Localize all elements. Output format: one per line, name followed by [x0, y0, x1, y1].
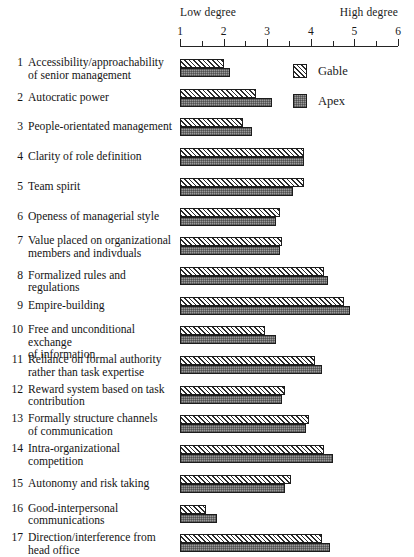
row-number: 7 [8, 235, 23, 248]
row-label: 9Empire-building [8, 300, 176, 313]
row-number: 11 [8, 354, 23, 367]
row-label-text: Accessibility/approachabilityof senior m… [28, 57, 164, 82]
row-number: 4 [8, 151, 23, 164]
axis-tick-major-1 [180, 39, 181, 46]
row-number: 8 [8, 270, 23, 283]
row-label: 6Openess of managerial style [8, 211, 176, 224]
bar-apex [180, 187, 293, 196]
bar-apex [180, 246, 280, 255]
row-number: 5 [8, 181, 23, 194]
axis-tick-major-6 [398, 39, 399, 46]
bar-apex [180, 276, 328, 285]
row-label: 16Good-interpersonalcommunications [8, 503, 176, 528]
axis-tick-major-5 [354, 39, 355, 46]
axis-tick-minor [376, 41, 377, 46]
row-label-text: Team spirit [28, 181, 80, 194]
row-label-text: Openess of managerial style [28, 211, 159, 224]
bar-apex [180, 217, 276, 226]
row-label: 11Reliance on formal authorityrather tha… [8, 354, 176, 379]
row-label-text: Reward system based on taskcontribution [28, 384, 165, 409]
row-label-text: Autocratic power [28, 92, 109, 105]
row-label-text: Clarity of role definition [28, 151, 142, 164]
bar-apex [180, 514, 217, 523]
bar-apex [180, 424, 306, 433]
bar-gable [180, 505, 206, 514]
bar-gable [180, 118, 243, 127]
bar-apex [180, 306, 350, 315]
bar-apex [180, 543, 330, 552]
bar-apex [180, 68, 230, 77]
bar-apex [180, 127, 252, 136]
bar-gable [180, 356, 315, 365]
row-number: 17 [8, 532, 23, 545]
row-label-text: Value placed on organizationalmembers an… [28, 235, 171, 260]
legend-item-apex: Apex [293, 94, 403, 108]
bar-apex [180, 454, 333, 463]
legend-swatch-gable-icon [293, 64, 307, 78]
bar-gable [180, 534, 322, 543]
bar-apex [180, 335, 276, 344]
bar-gable [180, 148, 304, 157]
row-label-text: Formalized rules and regulations [28, 270, 176, 295]
bar-gable [180, 237, 282, 246]
axis-tick-labels: 123456 [0, 24, 414, 40]
bar-apex [180, 365, 322, 374]
row-label: 17Direction/interference fromhead office [8, 532, 176, 557]
row-number: 3 [8, 121, 23, 134]
row-label: 12Reward system based on taskcontributio… [8, 384, 176, 409]
bar-gable [180, 326, 265, 335]
row-label: 5Team spirit [8, 181, 176, 194]
axis-tick-minor [333, 41, 334, 46]
bar-apex [180, 395, 282, 404]
axis-tick-label-3: 3 [264, 24, 270, 38]
row-number: 12 [8, 384, 23, 397]
row-label: 4Clarity of role definition [8, 151, 176, 164]
row-label-text: Formally structure channelsof communicat… [28, 413, 157, 438]
row-label: 8Formalized rules and regulations [8, 270, 176, 295]
row-label-text: People-orientated management [28, 121, 172, 134]
row-label-text: Empire-building [28, 300, 105, 313]
row-number: 10 [8, 324, 23, 337]
row-label: 3People-orientated management [8, 121, 176, 134]
axis-tick-major-2 [224, 39, 225, 46]
row-label: 7Value placed on organizationalmembers a… [8, 235, 176, 260]
axis-tick-minor [245, 41, 246, 46]
row-label: 1Accessibility/approachabilityof senior … [8, 57, 176, 82]
row-label-text: Direction/interference fromhead office [28, 532, 156, 557]
axis-tick-label-6: 6 [395, 24, 401, 38]
bar-gable [180, 445, 324, 454]
bar-gable [180, 208, 280, 217]
bar-gable [180, 386, 285, 395]
chart-legend: Gable Apex [293, 64, 403, 124]
axis-tick-label-4: 4 [308, 24, 314, 38]
row-number: 13 [8, 413, 23, 426]
row-number: 16 [8, 503, 23, 516]
bar-gable [180, 267, 324, 276]
axis-high-degree-label: High degree [340, 6, 398, 18]
bar-gable [180, 89, 256, 98]
axis-tick-minor [289, 41, 290, 46]
bar-apex [180, 98, 272, 107]
axis-tick-label-2: 2 [221, 24, 227, 38]
legend-swatch-apex-icon [293, 94, 307, 108]
row-label-text: Good-interpersonalcommunications [28, 503, 118, 528]
row-number: 15 [8, 478, 23, 491]
row-label-text: Reliance on formal authorityrather than … [28, 354, 162, 379]
axis-line [180, 46, 398, 47]
axis-tick-label-1: 1 [177, 24, 183, 38]
row-number: 1 [8, 57, 23, 70]
row-label: 2Autocratic power [8, 92, 176, 105]
row-label: 15Autonomy and risk taking [8, 478, 176, 491]
axis-low-degree-label: Low degree [180, 6, 236, 18]
row-number: 2 [8, 92, 23, 105]
bar-apex [180, 157, 304, 166]
legend-item-gable: Gable [293, 64, 403, 78]
axis-tick-label-5: 5 [352, 24, 358, 38]
legend-label-apex: Apex [318, 94, 345, 109]
axis-tick-major-4 [311, 39, 312, 46]
row-number: 6 [8, 211, 23, 224]
row-label-text: Intra-organizationalcompetition [28, 443, 120, 468]
bar-gable [180, 475, 291, 484]
row-label: 14Intra-organizationalcompetition [8, 443, 176, 468]
